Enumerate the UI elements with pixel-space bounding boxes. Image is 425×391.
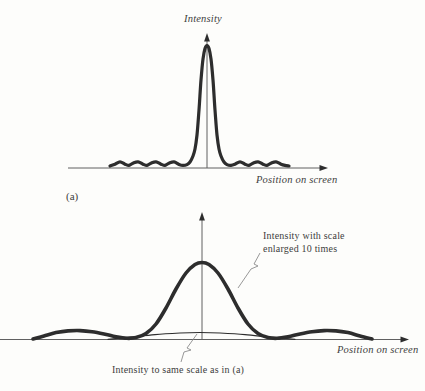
panel-b (0, 212, 409, 362)
leader-enlarged-scale (238, 253, 260, 288)
panel-a-tag: (a) (66, 190, 78, 202)
panel-a (68, 33, 328, 171)
curve-intensity-pattern (110, 46, 289, 167)
panel-a-y-axis-arrowhead (204, 33, 210, 42)
panel-b-y-axis-arrowhead (199, 212, 205, 221)
panel-a-y-axis-label: Intensity (184, 13, 222, 24)
panel-b-annotation-enlarged-scale: Intensity with scale enlarged 10 times (263, 230, 345, 255)
diffraction-intensity-figure: Intensity Position on screen (a) Intensi… (0, 0, 425, 391)
figure-canvas (0, 0, 425, 391)
panel-a-x-axis-label: Position on screen (256, 174, 337, 185)
panel-b-x-axis-arrowhead (401, 337, 410, 343)
panel-b-annotation-same-scale: Intensity to same scale as in (a) (112, 364, 244, 375)
leader-same-scale (181, 334, 197, 362)
panel-a-x-axis-arrowhead (320, 165, 329, 171)
panel-b-x-axis-label: Position on screen (337, 344, 418, 355)
